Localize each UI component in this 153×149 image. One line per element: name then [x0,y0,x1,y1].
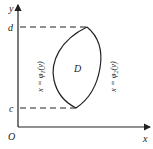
right-curve-label: x = φ2(y) [108,61,119,93]
region-d-label: D [73,63,82,74]
left-boundary-curve [53,27,87,108]
d-tick-label: d [8,22,14,33]
origin-label: O [8,131,15,142]
region-diagram: y x O d c D x = φ1(y) x = φ2(y) [0,0,153,149]
left-curve-label: x = φ1(y) [35,61,46,93]
c-tick-label: c [9,103,14,114]
x-axis-label: x [142,133,148,144]
y-axis-label: y [8,3,14,14]
